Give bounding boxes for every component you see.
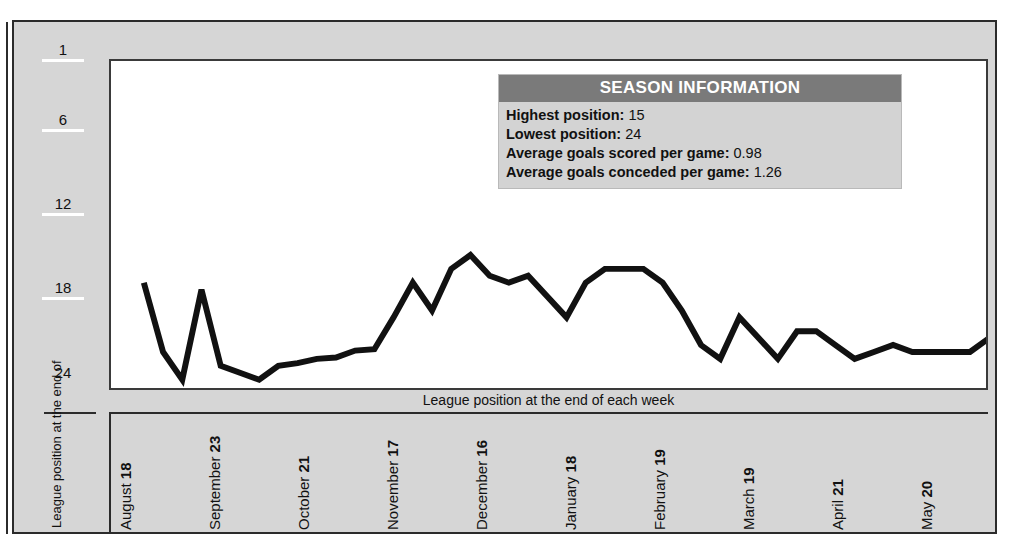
x-tick-january: January 18 xyxy=(561,412,581,530)
season-information-box: SEASON INFORMATION Highest position: 15L… xyxy=(498,74,902,189)
season-info-value: 0.98 xyxy=(734,145,762,161)
x-tick-february: February 19 xyxy=(650,412,670,530)
season-info-value: 15 xyxy=(628,107,644,123)
x-tick-day: 23 xyxy=(206,436,223,453)
y-tick-label: 18 xyxy=(34,280,92,295)
x-tick-month: April xyxy=(829,496,846,530)
y-tick-12: 12 xyxy=(34,196,92,216)
y-tick-18: 18 xyxy=(34,280,92,300)
x-axis-month-labels: August 18September 23October 21November … xyxy=(109,416,988,534)
y-axis-title-wrap: League position at the end of xyxy=(34,416,104,534)
x-tick-day: 20 xyxy=(918,481,935,498)
y-axis-title-line1: League position at the end of xyxy=(49,360,64,528)
x-tick-month: February xyxy=(651,466,668,530)
season-info-label: Average goals scored per game: xyxy=(506,145,734,161)
x-tick-september: September 23 xyxy=(205,412,225,530)
x-tick-day: 19 xyxy=(740,467,757,484)
y-tick-rule xyxy=(42,59,84,62)
season-info-label: Average goals conceded per game: xyxy=(506,164,754,180)
y-tick-label: 6 xyxy=(34,112,92,127)
x-tick-november: November 17 xyxy=(383,412,403,530)
x-tick-day: 18 xyxy=(562,456,579,473)
season-info-label: Highest position: xyxy=(506,107,628,123)
season-info-row: Average goals scored per game: 0.98 xyxy=(506,144,894,163)
x-tick-month: May xyxy=(918,497,935,530)
x-tick-day: 17 xyxy=(384,440,401,457)
y-tick-1: 1 xyxy=(34,42,92,62)
y-tick-label: 12 xyxy=(34,196,92,211)
x-tick-april: April 21 xyxy=(828,412,848,530)
season-information-title: SEASON INFORMATION xyxy=(499,75,901,102)
season-info-row: Average goals conceded per game: 1.26 xyxy=(506,163,894,182)
x-tick-may: May 20 xyxy=(917,412,937,530)
chart-caption: League position at the end of each week xyxy=(109,392,988,408)
x-tick-october: October 21 xyxy=(294,412,314,530)
y-tick-6: 6 xyxy=(34,112,92,132)
y-tick-label: 1 xyxy=(34,42,92,57)
x-tick-month: January xyxy=(562,472,579,530)
y-tick-rule xyxy=(42,129,84,132)
chart-page: 16121824 SEASON INFORMATION Highest posi… xyxy=(0,0,1011,556)
page-margin-rule xyxy=(6,22,8,534)
x-tick-month: March xyxy=(740,484,757,530)
x-tick-month: December xyxy=(473,457,490,530)
x-tick-august: August 18 xyxy=(116,412,136,530)
x-tick-day: 18 xyxy=(117,462,134,479)
x-tick-march: March 19 xyxy=(739,412,759,530)
x-tick-day: 16 xyxy=(473,440,490,457)
y-tick-rule xyxy=(42,297,84,300)
season-info-row: Highest position: 15 xyxy=(506,106,894,125)
x-tick-month: October xyxy=(295,472,312,530)
y-axis-title: League position at the end of xyxy=(49,414,64,528)
chart-panel: 16121824 SEASON INFORMATION Highest posi… xyxy=(12,20,997,534)
x-tick-day: 21 xyxy=(829,479,846,496)
x-tick-month: August xyxy=(117,479,134,530)
x-tick-day: 19 xyxy=(651,449,668,466)
x-tick-day: 21 xyxy=(295,456,312,473)
season-info-value: 1.26 xyxy=(754,164,782,180)
data-series-line xyxy=(144,255,986,380)
season-info-row: Lowest position: 24 xyxy=(506,125,894,144)
season-info-label: Lowest position: xyxy=(506,126,625,142)
y-tick-rule xyxy=(42,213,84,216)
x-tick-month: September xyxy=(206,452,223,530)
x-tick-month: November xyxy=(384,457,401,530)
x-axis-rule xyxy=(109,412,988,414)
season-info-value: 24 xyxy=(625,126,641,142)
x-tick-december: December 16 xyxy=(472,412,492,530)
season-information-rows: Highest position: 15Lowest position: 24A… xyxy=(499,102,901,188)
